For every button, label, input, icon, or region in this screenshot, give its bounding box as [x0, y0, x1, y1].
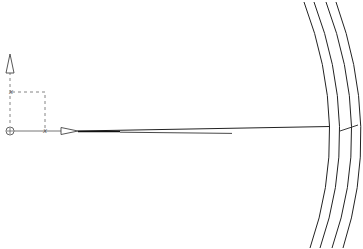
- ucs-x-label: x: [42, 127, 48, 135]
- ucs-icon: x x: [6, 54, 78, 135]
- concentric-arcs[interactable]: [304, 2, 361, 248]
- drawing-canvas[interactable]: x x: [0, 0, 363, 249]
- ucs-y-label: x: [8, 88, 14, 96]
- ucs-y-arrow-icon: [6, 54, 14, 73]
- construction-box: [12, 92, 45, 129]
- horizontal-lines[interactable]: [78, 125, 358, 133]
- arc-connector-line[interactable]: [340, 125, 358, 131]
- ucs-x-arrow-icon: [61, 128, 78, 135]
- secondary-line[interactable]: [120, 132, 232, 133]
- main-line[interactable]: [78, 127, 330, 132]
- arc-2[interactable]: [314, 2, 340, 248]
